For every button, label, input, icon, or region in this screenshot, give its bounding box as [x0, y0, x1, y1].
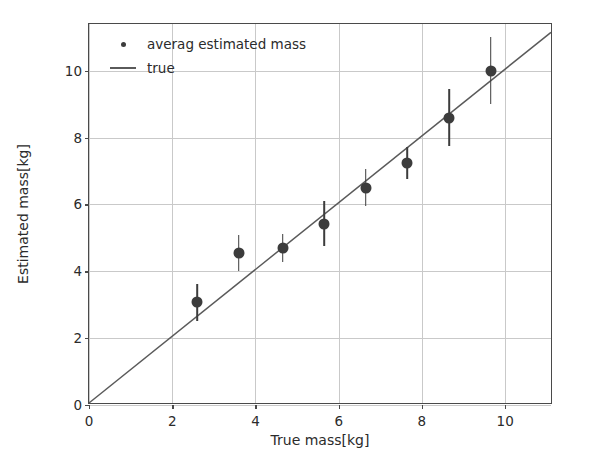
y-tick-mark	[85, 138, 89, 139]
legend: averag estimated mass true	[103, 32, 343, 86]
y-tick-mark	[85, 71, 89, 72]
data-point-marker	[360, 182, 371, 193]
x-tick-label: 4	[251, 413, 260, 429]
x-tick-label: 0	[85, 413, 94, 429]
x-tick-mark	[505, 405, 506, 409]
data-point-marker	[443, 112, 454, 123]
x-tick-mark	[89, 405, 90, 409]
x-axis-label: True mass[kg]	[88, 432, 552, 448]
legend-label-estimated-mass: averag estimated mass	[147, 36, 306, 52]
legend-item-estimated-mass: averag estimated mass	[103, 32, 306, 56]
data-point-marker	[277, 242, 288, 253]
x-axis-label-text: True mass[kg]	[271, 432, 370, 448]
x-tick-mark	[255, 405, 256, 409]
y-tick-mark	[85, 271, 89, 272]
y-tick-mark	[85, 204, 89, 205]
x-tick-label: 6	[334, 413, 343, 429]
y-tick-label: 6	[73, 196, 82, 212]
data-point-marker	[192, 297, 203, 308]
legend-label-true: true	[147, 60, 175, 76]
plot-area: averag estimated mass true 0246810024681…	[88, 23, 552, 404]
y-tick-label: 4	[73, 263, 82, 279]
legend-marker-dot-icon	[103, 42, 143, 47]
y-tick-label: 0	[73, 397, 82, 413]
x-tick-label: 8	[418, 413, 427, 429]
x-tick-mark	[422, 405, 423, 409]
y-tick-label: 2	[73, 330, 82, 346]
chart-figure: Estimated mass[kg] averag estimated mass…	[0, 0, 616, 472]
data-point-marker	[319, 218, 330, 229]
x-tick-mark	[172, 405, 173, 409]
data-point-marker	[485, 65, 496, 76]
data-point-marker	[233, 247, 244, 258]
data-point-marker	[402, 157, 413, 168]
y-tick-mark	[85, 338, 89, 339]
x-tick-label: 2	[168, 413, 177, 429]
gridline-horizontal	[89, 405, 551, 406]
y-tick-label: 8	[73, 130, 82, 146]
x-tick-mark	[339, 405, 340, 409]
legend-item-true: true	[103, 56, 175, 80]
x-tick-label: 10	[497, 413, 514, 429]
y-axis-label-text: Estimated mass[kg]	[15, 144, 31, 284]
y-tick-label: 10	[65, 63, 82, 79]
legend-marker-line-icon	[103, 67, 143, 68]
y-axis-label: Estimated mass[kg]	[14, 23, 32, 404]
